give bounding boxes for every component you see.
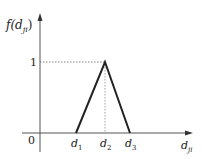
x-tick-d3: d3 [125, 137, 137, 152]
x-tick-d2: d2 [100, 137, 112, 152]
origin-label: 0 [28, 134, 35, 147]
peak-value-label: 1 [30, 56, 37, 69]
x-axis-label: dji [181, 139, 192, 154]
triangle-membership-line [76, 62, 130, 133]
y-axis-arrow-icon [38, 13, 43, 21]
x-tick-d1: d1 [71, 137, 83, 152]
y-axis-label: f(dji) [5, 18, 33, 34]
x-axis-arrow-icon [185, 131, 193, 136]
membership-diagram: f(dji) 1 0 d1 d2 d3 dji [0, 0, 202, 159]
